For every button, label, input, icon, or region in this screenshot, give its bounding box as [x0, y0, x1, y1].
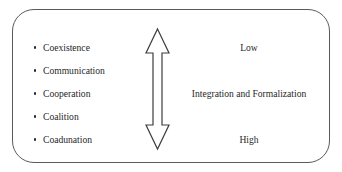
bullet-point-icon [34, 92, 36, 94]
bullet-point-icon [34, 69, 36, 71]
scale-label-axis-title: Integration and Formalization [178, 82, 320, 105]
list-item-label: Coalition [43, 111, 79, 122]
list-item: Coexistence [34, 36, 144, 59]
scale-label-low: Low [178, 36, 320, 59]
bullet-point-icon [34, 115, 36, 117]
scale-label-high: High [178, 128, 320, 151]
list-item-label: Cooperation [43, 88, 90, 99]
list-item-label: Coexistence [43, 42, 90, 53]
list-item-label: Communication [43, 65, 105, 76]
list-item: Cooperation [34, 82, 144, 105]
diagram-canvas: Coexistence Communication Cooperation Co… [0, 0, 342, 172]
bullet-point-icon [34, 46, 36, 48]
list-item: Coalition [34, 105, 144, 128]
list-item: Coadunation [34, 128, 144, 151]
integration-levels-list: Coexistence Communication Cooperation Co… [34, 36, 144, 151]
list-item: Communication [34, 59, 144, 82]
bullet-point-icon [34, 138, 36, 140]
list-item-label: Coadunation [43, 134, 92, 145]
scale-labels-column: Low Integration and Formalization High [178, 36, 320, 154]
double-headed-vertical-arrow-icon [141, 27, 174, 151]
